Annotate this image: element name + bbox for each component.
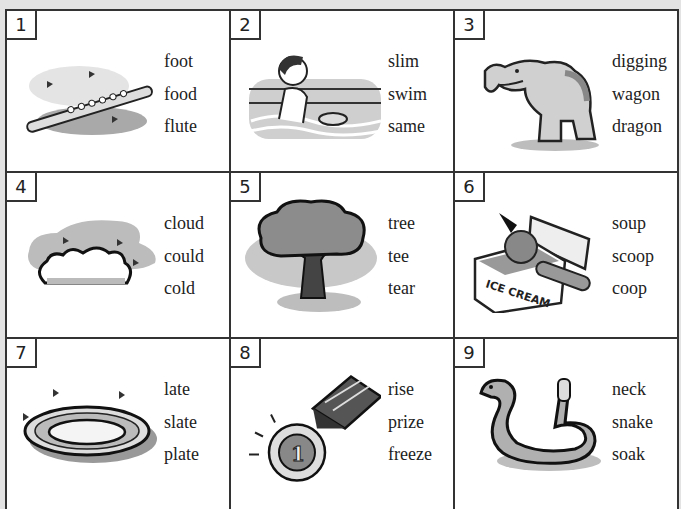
word-option[interactable]: cloud — [164, 213, 204, 246]
grid-divider — [229, 11, 231, 507]
plate-icon — [17, 369, 157, 479]
word-choices: cloud could cold — [164, 213, 204, 311]
item-number: 6 — [455, 173, 485, 202]
word-option[interactable]: cold — [164, 278, 204, 311]
cloud-icon — [17, 203, 157, 313]
word-option[interactable]: scoop — [612, 246, 654, 279]
word-option[interactable]: snake — [612, 412, 653, 445]
word-choices: tree tee tear — [388, 213, 415, 311]
grid-divider — [7, 337, 677, 339]
word-choices: digging wagon dragon — [612, 51, 667, 149]
word-option[interactable]: slim — [388, 51, 427, 84]
cell-7: 7 late slate plate — [7, 339, 229, 509]
item-number: 3 — [455, 11, 485, 40]
item-number: 9 — [455, 339, 485, 368]
word-option[interactable]: digging — [612, 51, 667, 84]
word-option[interactable]: freeze — [388, 444, 432, 477]
word-option[interactable]: coop — [612, 278, 654, 311]
word-choices: soup scoop coop — [612, 213, 654, 311]
flute-icon — [17, 41, 157, 151]
word-option[interactable]: late — [164, 379, 199, 412]
word-option[interactable]: neck — [612, 379, 653, 412]
svg-text:1: 1 — [291, 442, 305, 466]
item-number: 7 — [7, 339, 37, 368]
word-picture-grid: 1 foot food flute 2 — [5, 9, 679, 509]
word-option[interactable]: rise — [388, 379, 432, 412]
cell-9: 9 neck snake soak — [455, 339, 677, 509]
word-choices: slim swim same — [388, 51, 427, 149]
grid-divider — [453, 11, 455, 507]
cell-3: 3 digging wagon dragon — [455, 11, 677, 171]
boy-swimming-icon — [241, 41, 381, 151]
word-option[interactable]: swim — [388, 84, 427, 117]
word-option[interactable]: could — [164, 246, 204, 279]
word-choices: foot food flute — [164, 51, 197, 149]
word-choices: rise prize freeze — [388, 379, 432, 477]
word-option[interactable]: food — [164, 84, 197, 117]
cell-6: 6 ICE CREAM soup scoop coop — [455, 173, 677, 337]
dragon-icon — [465, 41, 605, 151]
item-number: 1 — [7, 11, 37, 40]
word-option[interactable]: foot — [164, 51, 197, 84]
ice-cream-scoop-icon: ICE CREAM — [465, 203, 605, 313]
snake-icon — [465, 369, 605, 479]
word-option[interactable]: tree — [388, 213, 415, 246]
grid-divider — [7, 171, 677, 173]
word-choices: late slate plate — [164, 379, 199, 477]
word-option[interactable]: plate — [164, 444, 199, 477]
word-option[interactable]: same — [388, 116, 427, 149]
cell-4: 4 cloud could cold — [7, 173, 229, 337]
cell-2: 2 slim swim same — [231, 11, 453, 171]
cell-5: 5 tree tee tear — [231, 173, 453, 337]
word-option[interactable]: soak — [612, 444, 653, 477]
word-option[interactable]: flute — [164, 116, 197, 149]
word-option[interactable]: soup — [612, 213, 654, 246]
word-option[interactable]: prize — [388, 412, 432, 445]
cell-8: 8 1 rise prize freeze — [231, 339, 453, 509]
prize-medal-icon: 1 — [241, 359, 381, 484]
word-option[interactable]: wagon — [612, 84, 667, 117]
word-option[interactable]: tear — [388, 278, 415, 311]
item-number: 4 — [7, 173, 37, 202]
word-choices: neck snake soak — [612, 379, 653, 477]
item-number: 2 — [231, 11, 261, 40]
tree-icon — [241, 193, 381, 313]
cell-1: 1 foot food flute — [7, 11, 229, 171]
word-option[interactable]: dragon — [612, 116, 667, 149]
word-option[interactable]: tee — [388, 246, 415, 279]
word-option[interactable]: slate — [164, 412, 199, 445]
